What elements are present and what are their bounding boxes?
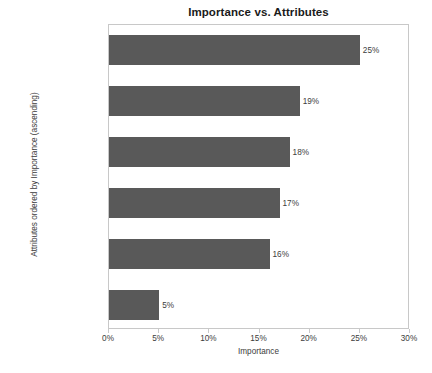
x-axis-tick	[309, 329, 310, 333]
bar	[109, 188, 280, 218]
bar	[109, 290, 159, 320]
bar-value-label: 25%	[360, 46, 379, 55]
x-axis-tick-label: 5%	[152, 334, 164, 343]
bar-row: 25%	[109, 35, 408, 65]
bar-row: 5%	[109, 290, 408, 320]
x-axis-tick	[208, 329, 209, 333]
x-axis-tick	[259, 329, 260, 333]
x-axis-tick	[108, 329, 109, 333]
bar-row: 19%	[109, 86, 408, 116]
plot-area: 25%19%18%17%16%5%	[108, 24, 409, 329]
bar	[109, 137, 290, 167]
bars-layer: 25%19%18%17%16%5%	[109, 25, 408, 328]
y-axis-title: Attributes ordered by Importance (ascend…	[30, 55, 39, 295]
x-axis-tick	[409, 329, 410, 333]
x-axis-tick	[359, 329, 360, 333]
x-axis-tick-label: 30%	[401, 334, 417, 343]
bar-row: 18%	[109, 137, 408, 167]
x-axis-tick-label: 0%	[102, 334, 114, 343]
bar-row: 16%	[109, 239, 408, 269]
bar	[109, 86, 300, 116]
x-axis-tick-label: 10%	[200, 334, 216, 343]
bar-value-label: 18%	[290, 148, 309, 157]
chart-title: Importance vs. Attributes	[108, 6, 409, 18]
x-axis-tick-label: 20%	[300, 334, 316, 343]
bar-value-label: 19%	[300, 97, 319, 106]
x-axis-title: Importance	[108, 347, 409, 356]
bar-value-label: 16%	[270, 249, 289, 258]
x-axis-tick-label: 25%	[351, 334, 367, 343]
bar-value-label: 5%	[159, 300, 174, 309]
bar-row: 17%	[109, 188, 408, 218]
x-axis-tick-label: 15%	[250, 334, 266, 343]
x-axis-tick	[158, 329, 159, 333]
bar-chart: Importance vs. Attributes Attributes ord…	[0, 0, 432, 373]
bar	[109, 239, 270, 269]
bar-value-label: 17%	[280, 198, 299, 207]
bar	[109, 35, 360, 65]
